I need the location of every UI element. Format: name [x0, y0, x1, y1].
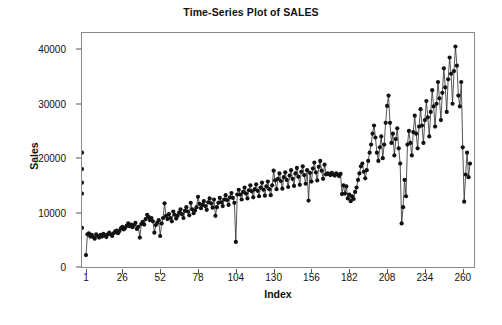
data-point-marker: [187, 213, 191, 217]
data-point-marker: [289, 168, 293, 172]
data-point-marker: [138, 236, 142, 240]
data-point-marker: [256, 189, 260, 193]
data-point-marker: [458, 104, 462, 108]
data-point-marker: [317, 165, 321, 169]
data-point-marker: [434, 102, 438, 106]
data-point-marker: [408, 141, 412, 145]
data-point-marker: [400, 221, 404, 225]
data-point-marker: [266, 179, 270, 183]
data-point-marker: [261, 188, 265, 192]
data-point-marker: [244, 191, 248, 195]
data-point-marker: [269, 193, 273, 197]
x-tick-mark: [274, 269, 275, 274]
x-tick-mark: [463, 269, 464, 274]
data-point-marker: [312, 160, 316, 164]
data-point-marker: [420, 123, 424, 127]
data-point-marker: [272, 169, 276, 173]
data-point-marker: [152, 231, 156, 235]
data-point-marker: [365, 168, 369, 172]
data-point-marker: [309, 179, 313, 183]
data-point-marker: [436, 80, 440, 84]
data-point-marker: [398, 162, 402, 166]
data-point-marker: [298, 183, 302, 187]
x-tick-mark: [236, 269, 237, 274]
data-point-marker: [160, 221, 164, 225]
data-point-marker: [314, 170, 318, 174]
data-point-marker: [389, 141, 393, 145]
data-point-marker: [416, 146, 420, 150]
data-point-marker: [466, 175, 470, 179]
data-point-marker: [376, 159, 380, 163]
data-point-marker: [237, 188, 241, 192]
data-point-marker: [232, 201, 236, 205]
data-point-marker: [212, 197, 216, 201]
data-point-marker: [453, 45, 457, 49]
x-tick-mark: [122, 269, 123, 274]
data-point-marker: [459, 80, 463, 84]
x-tick-mark: [349, 269, 350, 274]
data-point-marker: [311, 166, 315, 170]
data-point-marker: [178, 207, 182, 211]
data-point-marker: [407, 129, 411, 133]
data-point-marker: [433, 125, 437, 129]
data-point-marker: [363, 176, 367, 180]
data-point-marker: [320, 169, 324, 173]
data-point-marker: [292, 184, 296, 188]
data-point-marker: [224, 193, 228, 197]
data-point-marker: [462, 200, 466, 204]
plot-area: [81, 32, 475, 268]
data-point-marker: [437, 96, 441, 100]
data-point-marker: [379, 134, 383, 138]
data-point-marker: [213, 214, 217, 218]
data-point-marker: [378, 145, 382, 149]
data-point-marker: [385, 104, 389, 108]
data-point-marker: [167, 212, 171, 216]
data-point-marker: [133, 221, 137, 225]
data-point-marker: [426, 115, 430, 119]
data-point-marker: [84, 253, 88, 257]
data-point-marker: [221, 204, 225, 208]
data-point-marker: [468, 162, 472, 166]
data-point-marker: [215, 205, 219, 209]
data-point-marker: [315, 178, 319, 182]
data-point-marker: [308, 171, 312, 175]
data-point-marker: [234, 240, 238, 244]
data-point-marker: [304, 182, 308, 186]
data-point-marker: [218, 196, 222, 200]
data-point-marker: [382, 142, 386, 146]
data-point-marker: [209, 201, 213, 205]
data-point-marker: [366, 159, 370, 163]
data-point-marker: [391, 132, 395, 136]
data-point-marker: [461, 145, 465, 149]
data-point-marker: [203, 204, 207, 208]
data-point-marker: [372, 123, 376, 127]
data-point-marker: [318, 159, 322, 163]
data-point-marker: [352, 197, 356, 201]
data-point-marker: [296, 175, 300, 179]
data-point-marker: [357, 171, 361, 175]
data-point-marker: [344, 184, 348, 188]
data-point-marker: [401, 205, 405, 209]
data-point-marker: [180, 212, 184, 216]
data-point-marker: [443, 85, 447, 89]
data-point-marker: [368, 151, 372, 155]
data-point-marker: [245, 196, 249, 200]
data-point-marker: [410, 153, 414, 157]
data-point-marker: [263, 194, 267, 198]
data-point-marker: [395, 126, 399, 130]
data-point-marker: [394, 137, 398, 141]
data-point-marker: [322, 163, 326, 167]
data-point-marker: [360, 162, 364, 166]
data-point-marker: [286, 185, 290, 189]
data-point-marker: [446, 77, 450, 81]
data-point-marker: [306, 199, 310, 203]
data-point-marker: [356, 178, 360, 182]
data-point-marker: [283, 170, 287, 174]
data-point-marker: [257, 194, 261, 198]
data-point-marker: [151, 219, 155, 223]
data-point-marker: [386, 93, 390, 97]
data-point-marker: [388, 121, 392, 125]
x-tick-mark: [425, 269, 426, 274]
data-point-marker: [290, 177, 294, 181]
data-point-marker: [414, 132, 418, 136]
